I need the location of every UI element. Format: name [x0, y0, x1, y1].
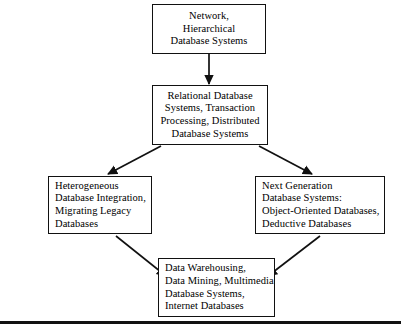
node-text-line: Object-Oriented Databases, [256, 205, 379, 218]
node-text-line: Internet Databases [159, 300, 244, 313]
node-text-line: Database Systems, [159, 288, 245, 301]
node-text-line: Databases [49, 218, 98, 231]
node-text-line: Database Systems [167, 35, 252, 48]
next-generation-node: Next Generation Database Systems: Object… [255, 176, 385, 234]
network-hierarchical-node: Network, Hierarchical Database Systems [152, 4, 266, 54]
node-text-line: Database Integration, [49, 192, 146, 205]
node-text-line: Database Systems: [256, 192, 342, 205]
node-text-line: Migrating Legacy [49, 205, 131, 218]
node-text-line: Hierarchical [179, 23, 239, 36]
edge-relational-to-nextgen [259, 146, 312, 174]
node-text-line: Processing, Distributed [156, 115, 263, 128]
node-text-line: Systems, Transaction [161, 102, 259, 115]
node-text-line: Database Systems [168, 128, 253, 141]
node-text-line: Data Warehousing, [159, 262, 246, 275]
relational-node: Relational Database Systems, Transaction… [152, 85, 268, 145]
node-text-line: Network, [185, 10, 233, 23]
diagram-canvas: Network, Hierarchical Database Systems R… [0, 0, 401, 334]
node-text-line: Data Mining, Multimedia [159, 275, 274, 288]
heterogeneous-node: Heterogeneous Database Integration, Migr… [48, 176, 152, 234]
bottom-horizontal-rule [0, 321, 401, 324]
edge-nextgen-to-warehouse [268, 236, 320, 276]
node-text-line: Heterogeneous [49, 180, 119, 193]
node-text-line: Deductive Databases [256, 218, 351, 231]
data-warehousing-node: Data Warehousing, Data Mining, Multimedi… [158, 258, 275, 317]
node-text-line: Relational Database [163, 90, 256, 103]
node-text-line: Next Generation [256, 180, 332, 193]
edge-relational-to-hetero [108, 146, 161, 174]
